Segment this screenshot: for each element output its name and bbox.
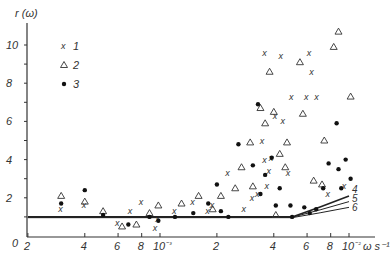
dot-marker-icon <box>334 121 338 125</box>
dot-marker-icon <box>290 215 294 219</box>
x-marker-icon: x <box>272 111 278 121</box>
dot-marker-icon <box>173 215 177 219</box>
x-marker-icon: x <box>308 67 314 77</box>
dot-marker-icon <box>236 142 240 146</box>
dot-marker-icon <box>126 222 130 226</box>
dot-marker-icon <box>206 201 210 205</box>
triangle-marker-icon <box>266 68 273 74</box>
curve-5 <box>28 202 349 218</box>
triangle-marker-icon <box>100 208 107 214</box>
triangle-marker-icon <box>146 210 153 216</box>
triangle-marker-icon <box>58 192 65 198</box>
triangle-marker-icon <box>347 93 354 99</box>
triangle-marker-icon <box>284 139 291 145</box>
y-ticks: 246810 <box>5 39 27 217</box>
x-marker-icon: x <box>224 168 230 178</box>
triangle-marker-icon <box>335 28 342 34</box>
x-marker-icon: x <box>189 197 195 207</box>
x-marker-icon: x <box>81 200 87 210</box>
triangle-marker-icon <box>262 120 269 126</box>
dot-marker-icon <box>288 203 292 207</box>
dot-marker-icon <box>270 155 274 159</box>
triangle-marker-icon <box>319 181 326 187</box>
dot-marker-icon <box>274 203 278 207</box>
x-marker-icon: x <box>263 181 269 191</box>
x-marker-icon: x <box>60 41 66 51</box>
triangle-marker-icon <box>321 137 328 143</box>
x-tick-label: 6 <box>303 240 310 252</box>
dot-marker-icon <box>343 157 347 161</box>
dot-marker-icon <box>219 209 223 213</box>
dot-marker-icon <box>339 186 343 190</box>
x-marker-icon: x <box>279 116 285 126</box>
x-marker-icon: x <box>127 206 133 216</box>
x-marker-icon: x <box>114 218 120 228</box>
legend-label: 3 <box>73 78 80 90</box>
dot-marker-icon <box>278 186 282 190</box>
triangle-marker-icon <box>155 202 162 208</box>
y-axis-label: r (ω) <box>15 7 38 19</box>
dot-marker-icon <box>83 188 87 192</box>
x-tick-label: 4 <box>270 240 276 252</box>
x-tick-label: 10⁻² <box>342 240 361 252</box>
x-marker-icon: x <box>171 206 177 216</box>
dot-marker-icon <box>326 161 330 165</box>
triangle-marker-icon <box>247 139 254 145</box>
x-tick-label: 8 <box>327 240 334 252</box>
dot-marker-icon <box>348 177 352 181</box>
curve-label: 6 <box>352 202 358 213</box>
x-marker-icon: x <box>57 204 63 214</box>
x-tick-label: 4 <box>81 240 87 252</box>
triangle-marker-icon <box>195 192 202 198</box>
dot-marker-icon <box>336 167 340 171</box>
x-marker-icon: x <box>303 92 309 102</box>
origin-label: 0 <box>12 237 19 249</box>
x-tick-label: 8 <box>138 240 145 252</box>
dot-marker-icon <box>62 82 66 86</box>
y-tick-label: 4 <box>6 154 12 166</box>
curve-4 <box>28 196 349 217</box>
scatter-chart: r (ω) 0 246810 246810⁻³246810⁻²ω s⁻¹ 456… <box>0 0 391 269</box>
x-marker-icon: x <box>241 204 247 214</box>
x-marker-icon: x <box>278 51 284 61</box>
x-marker-icon: x <box>288 92 294 102</box>
dot-marker-icon <box>256 102 260 106</box>
legend: x123 <box>60 40 80 90</box>
triangle-marker-icon <box>178 200 185 206</box>
dot-marker-icon <box>191 211 195 215</box>
triangle-marker-icon <box>119 223 126 229</box>
series-2 <box>58 28 354 229</box>
dot-marker-icon <box>101 213 105 217</box>
dot-marker-icon <box>147 215 151 219</box>
dot-marker-icon <box>314 207 318 211</box>
y-tick-label: 8 <box>6 77 13 89</box>
x-marker-icon: x <box>306 48 312 58</box>
triangle-marker-icon <box>133 221 140 227</box>
x-tick-label: 2 <box>212 240 219 252</box>
x-tick-label: 10⁻³ <box>153 240 172 252</box>
dot-marker-icon <box>302 205 306 209</box>
triangle-marker-icon <box>330 43 337 49</box>
dot-marker-icon <box>308 211 312 215</box>
triangle-marker-icon <box>217 192 224 198</box>
x-marker-icon: x <box>259 136 265 146</box>
y-tick-label: 2 <box>5 192 12 204</box>
x-ticks: 246810⁻³246810⁻²ω s⁻¹ <box>23 233 390 252</box>
x-tick-label: 6 <box>114 240 121 252</box>
dot-marker-icon <box>156 219 160 223</box>
dot-marker-icon <box>59 201 63 205</box>
dot-marker-icon <box>251 163 255 167</box>
x-marker-icon: x <box>261 48 267 58</box>
triangle-marker-icon <box>310 177 317 183</box>
triangle-marker-icon <box>232 185 239 191</box>
dot-marker-icon <box>263 173 267 177</box>
legend-label: 1 <box>73 40 79 52</box>
triangle-marker-icon <box>238 164 245 170</box>
x-marker-icon: x <box>261 155 267 165</box>
x-marker-icon: x <box>325 189 331 199</box>
x-axis-label: ω s⁻¹ <box>363 240 390 252</box>
legend-label: 2 <box>72 59 79 71</box>
x-tick-label: 2 <box>23 240 30 252</box>
triangle-marker-icon <box>296 59 303 65</box>
triangle-marker-icon <box>276 150 283 156</box>
